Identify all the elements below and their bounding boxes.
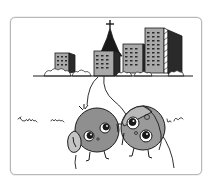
- skyline: [55, 20, 182, 76]
- building-center: [94, 51, 120, 76]
- right-character: [121, 106, 165, 158]
- left-character: [68, 104, 119, 161]
- cartoon-illustration: [0, 0, 209, 187]
- tower: [98, 20, 122, 56]
- building-tall-right: [145, 28, 182, 74]
